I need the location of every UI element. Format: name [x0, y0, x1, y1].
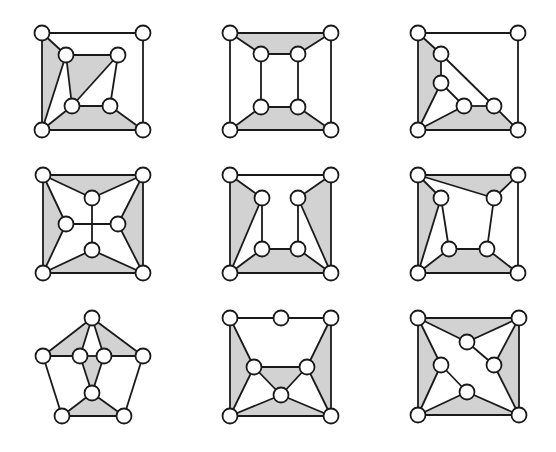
graph-node [59, 48, 74, 63]
graph-diagram-grid [0, 0, 556, 452]
graph-node [324, 409, 339, 424]
graph-node [73, 349, 88, 364]
graph-node [274, 388, 289, 403]
graph-node [223, 266, 238, 281]
graph-node [512, 408, 527, 423]
graph-node [223, 311, 238, 326]
graph-node [511, 266, 526, 281]
graph-node [65, 99, 80, 114]
graph-node [511, 123, 526, 138]
graph-node [55, 409, 70, 424]
graph-node [223, 409, 238, 424]
graph-node [324, 123, 339, 138]
graph-node [411, 408, 426, 423]
graph-node [223, 26, 238, 41]
graph-node [300, 360, 315, 375]
graph-node [111, 217, 126, 232]
graph-node [223, 168, 238, 183]
graph-node [247, 360, 262, 375]
graph-node [291, 100, 306, 115]
graph-node [324, 26, 339, 41]
graph-node [460, 335, 475, 350]
graph-node [136, 26, 151, 41]
graph-node [85, 311, 100, 326]
graph-node [117, 409, 132, 424]
graph-node [434, 76, 449, 91]
graph-node [434, 191, 449, 206]
graph-node [36, 168, 51, 183]
graph-node [324, 168, 339, 183]
graph-node [136, 266, 151, 281]
graph-node [511, 168, 526, 183]
graph-node [324, 266, 339, 281]
graph-node [255, 242, 270, 257]
graph-node [103, 99, 118, 114]
graph-node [59, 217, 74, 232]
graph-node [255, 191, 270, 206]
graph-node [136, 168, 151, 183]
graph-node [487, 358, 502, 373]
graph-node [324, 311, 339, 326]
graph-node [85, 386, 100, 401]
graph-node [487, 191, 502, 206]
graph-node [291, 191, 306, 206]
graph-node [136, 123, 151, 138]
graph-node [291, 47, 306, 62]
graph-node [480, 242, 495, 257]
graph-node [85, 243, 100, 258]
graph-node [411, 311, 426, 326]
graph-node [291, 242, 306, 257]
graph-node [434, 358, 449, 373]
graph-node [434, 47, 449, 62]
graph-node [254, 100, 269, 115]
graph-node [512, 311, 527, 326]
graph-node [487, 99, 502, 114]
graph-node [460, 385, 475, 400]
graph-node [457, 99, 472, 114]
graph-node [35, 26, 50, 41]
graph-node [223, 123, 238, 138]
graph-node [111, 48, 126, 63]
graph-node [254, 47, 269, 62]
graph-node [411, 266, 426, 281]
graph-node [97, 349, 112, 364]
graph-node [411, 168, 426, 183]
graph-node [411, 123, 426, 138]
graph-node [85, 191, 100, 206]
graph-node [36, 266, 51, 281]
graph-node [442, 242, 457, 257]
graph-node [274, 311, 289, 326]
graph-node [36, 349, 51, 364]
graph-node [35, 123, 50, 138]
graph-node [136, 349, 151, 364]
graph-node [411, 26, 426, 41]
graph-node [511, 26, 526, 41]
